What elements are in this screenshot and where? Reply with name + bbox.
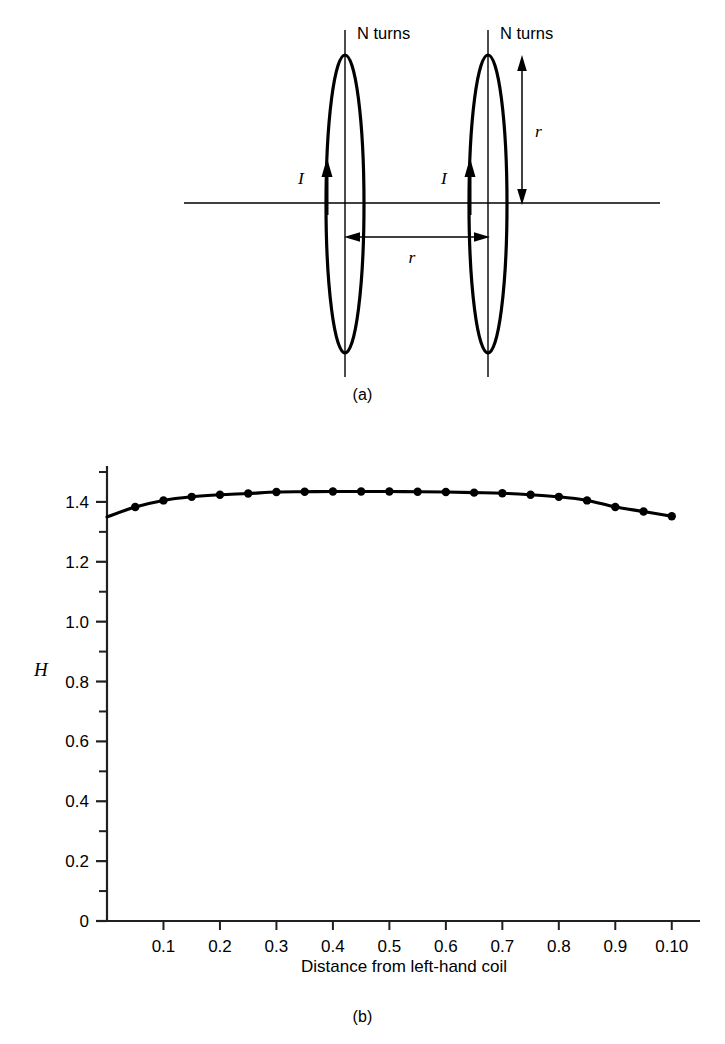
separation-dimension-arrowhead-left (344, 232, 360, 242)
x-tick-label: 0.2 (208, 937, 232, 956)
data-point (668, 512, 676, 520)
data-point (470, 488, 478, 496)
data-point (272, 488, 280, 496)
panel-b-caption: (b) (0, 1008, 725, 1026)
data-point (329, 487, 337, 495)
data-point (555, 493, 563, 501)
y-tick-label: 0.6 (65, 732, 89, 751)
x-tick-label: 0.6 (434, 937, 458, 956)
right-coil-turns-label: N turns (500, 24, 553, 42)
data-point (498, 489, 506, 497)
data-point (357, 487, 365, 495)
y-tick-label: 1.4 (65, 493, 89, 512)
left-current-arrow-head (322, 158, 333, 177)
y-tick-label: 1.2 (65, 553, 89, 572)
y-axis-title: H (33, 659, 49, 680)
figure-root: N turns N turns I I r r (a) 00.20.40.60.… (0, 0, 725, 1044)
y-tick-label: 0.8 (65, 673, 89, 692)
data-point (216, 491, 224, 499)
x-tick-label: 0.3 (265, 937, 289, 956)
x-tick-label: 0.7 (491, 937, 515, 956)
data-point (300, 488, 308, 496)
data-point (611, 503, 619, 511)
x-axis-tick-labels: 0.10.20.30.40.50.60.70.80.90.10 (152, 937, 689, 956)
x-axis-title: Distance from left-hand coil (301, 957, 507, 976)
radius-dimension-arrowhead-top (517, 55, 527, 71)
x-axis-ticks (163, 921, 671, 930)
data-point (639, 507, 647, 515)
data-point (244, 489, 252, 497)
panel-a-coil-diagram: N turns N turns I I r r (0, 0, 725, 420)
x-tick-label: 0.4 (321, 937, 345, 956)
data-point (413, 488, 421, 496)
y-tick-label: 0.4 (65, 792, 89, 811)
right-current-label: I (440, 168, 448, 188)
y-tick-label: 1.0 (65, 613, 89, 632)
data-point (442, 488, 450, 496)
y-axis-tick-labels: 00.20.40.60.81.01.21.4 (65, 493, 89, 931)
left-current-label: I (297, 168, 305, 188)
field-plot-svg: 00.20.40.60.81.01.21.4 0.10.20.30.40.50.… (0, 420, 725, 1044)
panel-a-caption: (a) (0, 386, 725, 404)
x-tick-label: 0.1 (152, 937, 176, 956)
separation-label: r (409, 247, 416, 267)
radius-label: r (535, 121, 542, 141)
x-tick-label: 0.10 (655, 937, 688, 956)
left-coil-turns-label: N turns (357, 24, 410, 42)
right-current-arrow-head (465, 158, 476, 177)
y-tick-label: 0.2 (65, 852, 89, 871)
data-point (159, 496, 167, 504)
x-tick-label: 0.9 (603, 937, 627, 956)
y-tick-label: 0 (80, 912, 89, 931)
data-point (188, 493, 196, 501)
data-point (526, 491, 534, 499)
coil-diagram-svg: N turns N turns I I r r (0, 0, 725, 420)
x-tick-label: 0.5 (378, 937, 402, 956)
data-point (385, 487, 393, 495)
data-point (131, 503, 139, 511)
x-tick-label: 0.8 (547, 937, 571, 956)
data-point (583, 496, 591, 504)
panel-b-field-plot: 00.20.40.60.81.01.21.4 0.10.20.30.40.50.… (0, 420, 725, 1044)
